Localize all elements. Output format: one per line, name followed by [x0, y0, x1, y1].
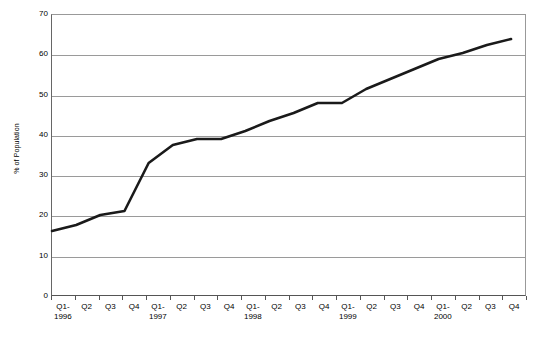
x-tick-label: Q4	[492, 302, 536, 312]
line-chart: % of Population 010203040506070 Q1-1996Q…	[0, 0, 545, 347]
x-tick	[431, 296, 432, 300]
x-tick	[146, 296, 147, 300]
series-polyline	[52, 39, 511, 231]
x-tick	[170, 296, 171, 300]
x-tick	[479, 296, 480, 300]
x-tick	[384, 296, 385, 300]
x-axis-ticks	[51, 296, 526, 301]
x-tick	[194, 296, 195, 300]
x-tick	[265, 296, 266, 300]
x-tick	[336, 296, 337, 300]
y-tick-label: 0	[24, 292, 48, 300]
x-tick-label-year: 1998	[231, 312, 275, 322]
y-tick-label: 20	[24, 211, 48, 219]
x-tick-label-year: 1999	[326, 312, 370, 322]
x-tick	[360, 296, 361, 300]
x-tick	[75, 296, 76, 300]
x-tick-label-quarter: Q4	[509, 302, 520, 311]
y-tick-label: 40	[24, 131, 48, 139]
x-tick-label-year: 1996	[41, 312, 85, 322]
x-tick	[122, 296, 123, 300]
x-tick	[51, 296, 52, 300]
x-tick	[526, 296, 527, 300]
y-tick-label: 70	[24, 10, 48, 18]
y-axis-tick-labels: 010203040506070	[20, 0, 48, 347]
x-tick	[312, 296, 313, 300]
y-tick-label: 50	[24, 91, 48, 99]
x-axis-tick-labels: Q1-1996Q2Q3Q4Q1-1997Q2Q3Q4Q1-1998Q2Q3Q4Q…	[51, 302, 526, 332]
y-axis-title-label: % of Population	[13, 123, 20, 174]
x-tick	[289, 296, 290, 300]
y-tick-label: 10	[24, 252, 48, 260]
plot-area	[51, 14, 526, 296]
x-tick-label-year: 2000	[421, 312, 465, 322]
x-tick-label-year: 1997	[136, 312, 180, 322]
x-tick	[455, 296, 456, 300]
series-line	[52, 15, 525, 295]
x-tick	[217, 296, 218, 300]
x-tick	[241, 296, 242, 300]
x-tick	[502, 296, 503, 300]
y-tick-label: 60	[24, 50, 48, 58]
y-tick-label: 30	[24, 171, 48, 179]
x-tick	[99, 296, 100, 300]
x-tick	[407, 296, 408, 300]
